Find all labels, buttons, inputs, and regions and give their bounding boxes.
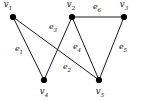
edge-label-sub-e4: 4 <box>78 47 82 53</box>
edge-label-e6: e6 <box>93 3 101 13</box>
edge-label-e1: e1 <box>15 45 23 55</box>
edge-label-sub-e6: 6 <box>98 7 102 13</box>
vertex-label-sub-v4: 4 <box>45 92 49 98</box>
vertex-label-v1: v1 <box>4 0 12 11</box>
vertex-label-sub-v3: 3 <box>125 5 129 11</box>
vertex-label-sub-v5: 5 <box>101 92 105 98</box>
edge-label-sub-e2: 2 <box>68 67 72 73</box>
edge-label-e4: e4 <box>73 43 81 53</box>
edge-label-e2: e2 <box>63 63 71 73</box>
graph-vertex-v4 <box>41 77 47 83</box>
edge-label-sub-e1: 1 <box>20 49 24 55</box>
vertex-label-sub-v1: 1 <box>9 5 13 11</box>
edge-label-e3: e3 <box>49 23 57 33</box>
graph-vertex-v5 <box>96 77 102 83</box>
graph-vertex-v3 <box>121 14 127 20</box>
edge-label-sub-e3: 3 <box>54 27 58 33</box>
edge-label-e5: e5 <box>119 43 127 53</box>
vertex-label-v4: v4 <box>40 87 48 98</box>
vertex-label-sub-v2: 2 <box>72 5 76 11</box>
vertex-label-v3: v3 <box>120 0 128 11</box>
edge-label-sub-e5: 5 <box>124 47 128 53</box>
vertex-label-v2: v2 <box>67 0 75 11</box>
vertex-label-v5: v5 <box>96 87 104 98</box>
graph-vertex-v1 <box>10 14 16 20</box>
graph-vertex-v2 <box>69 14 75 20</box>
graph-diagram: e1e2e3e4e5e6v1v2v3v4v5 <box>0 0 141 100</box>
